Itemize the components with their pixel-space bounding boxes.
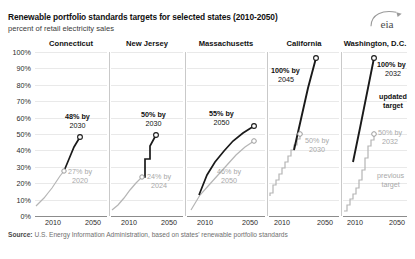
x-tick-nj-2050: 2050 — [161, 218, 177, 227]
panel-massachusetts: Massachusetts — [187, 52, 265, 216]
annotation-ct-previous-line2: 2020 — [72, 176, 88, 185]
chart-title: Renewable portfolio standards targets fo… — [8, 12, 278, 22]
annotation-dc-previous-line2: 2032 — [382, 137, 398, 146]
y-tick-90: 90% — [17, 64, 31, 73]
y-tick-0: 0% — [21, 212, 31, 221]
endpoint-updated-california — [314, 56, 319, 61]
x-tick-ca-2010: 2010 — [274, 218, 290, 227]
source-label: Source: — [8, 231, 33, 238]
y-tick-50: 50% — [17, 130, 31, 139]
annotation-ct-previous-line1: 27% by — [68, 167, 92, 176]
annotation-dc-previous: 50% by 2032 — [378, 128, 402, 147]
x-axis-connecticut: 2010 2050 — [35, 218, 107, 232]
panel-washington-dc: Washington, D.C. — [343, 52, 407, 216]
chart-subtitle: percent of retail electricity sales — [8, 24, 114, 33]
panel-series-new-jersey — [111, 52, 183, 216]
annotation-nj-updated: 50% by 2030 — [141, 110, 166, 129]
eia-logo: eia — [367, 8, 407, 34]
svg-text:eia: eia — [380, 18, 393, 30]
annotation-ma-updated-line2: 2050 — [213, 118, 229, 127]
source-text: U.S. Energy Information Administration, … — [33, 231, 288, 238]
endpoint-previous-washington-dc — [372, 132, 377, 137]
annotation-ca-updated-line2: 2045 — [278, 75, 294, 84]
endpoint-updated-washington-dc — [372, 56, 377, 61]
endpoint-previous-connecticut — [62, 169, 66, 173]
panels-container: Connecticut — [35, 52, 407, 216]
y-tick-70: 70% — [17, 97, 31, 106]
y-axis: 100% 90% 80% 70% 60% 50% 40% 30% 20% 10%… — [0, 52, 34, 216]
series-updated-new-jersey — [142, 135, 156, 177]
panel-series-massachusetts — [187, 52, 265, 216]
y-tick-20: 20% — [17, 179, 31, 188]
x-tick-dc-2050: 2050 — [389, 218, 405, 227]
y-tick-40: 40% — [17, 146, 31, 155]
y-tick-100: 100% — [13, 48, 31, 57]
panel-title-connecticut: Connecticut — [35, 39, 107, 48]
series-previous-new-jersey — [112, 177, 142, 210]
series-previous-washington-dc — [344, 134, 374, 211]
x-tick-ca-2050: 2050 — [317, 218, 333, 227]
series-updated-connecticut — [64, 137, 80, 171]
y-tick-10: 10% — [17, 195, 31, 204]
annotation-ct-previous: 27% by 2020 — [68, 167, 92, 186]
annotation-dc-previous-line1: 50% by — [378, 128, 402, 137]
annotation-nj-updated-line2: 2030 — [145, 119, 161, 128]
annotation-dc-updated-label-line1: updated — [379, 92, 407, 101]
x-tick-nj-2010: 2010 — [121, 218, 137, 227]
source-note: Source: U.S. Energy Information Administ… — [8, 231, 288, 238]
endpoint-previous-new-jersey — [140, 175, 144, 179]
x-axis-california: 2010 2050 — [269, 218, 339, 232]
panel-new-jersey: New Jersey — [111, 52, 183, 216]
series-previous-connecticut — [36, 171, 64, 206]
annotation-ma-updated: 55% by 2050 — [209, 109, 234, 128]
chart-figure: Renewable portfolio standards targets fo… — [0, 0, 415, 259]
x-axis-washington-dc: 2010 2050 — [343, 218, 407, 232]
annotation-ca-updated-line1: 100% by — [271, 66, 300, 75]
panel-california: California — [269, 52, 339, 216]
annotation-dc-updated-label-line2: target — [383, 101, 403, 110]
annotation-ma-previous-line2: 2050 — [221, 176, 237, 185]
endpoint-updated-new-jersey — [154, 133, 159, 138]
annotation-ct-updated: 48% by 2030 — [65, 112, 90, 131]
x-tick-ma-2010: 2010 — [197, 218, 213, 227]
panel-title-massachusetts: Massachusetts — [187, 39, 265, 48]
annotation-nj-previous: 24% by 2024 — [147, 172, 171, 191]
annotation-dc-previous-label-line1: previous — [377, 171, 404, 180]
y-tick-80: 80% — [17, 80, 31, 89]
annotation-nj-previous-line1: 24% by — [147, 172, 171, 181]
x-tick-ct-2010: 2010 — [45, 218, 61, 227]
endpoint-updated-massachusetts — [252, 124, 257, 129]
x-axis-massachusetts: 2010 2050 — [187, 218, 265, 232]
panel-title-washington-dc: Washington, D.C. — [343, 39, 407, 48]
annotation-dc-updated-line1: 100% by — [377, 60, 406, 69]
annotation-nj-updated-line1: 50% by — [141, 110, 166, 119]
y-tick-30: 30% — [17, 162, 31, 171]
annotation-nj-previous-line2: 2024 — [151, 181, 167, 190]
panel-series-connecticut — [35, 52, 107, 216]
endpoint-previous-massachusetts — [252, 139, 257, 144]
panel-title-new-jersey: New Jersey — [111, 39, 183, 48]
x-tick-ma-2050: 2050 — [242, 218, 258, 227]
annotation-dc-updated: 100% by 2032 — [377, 60, 406, 79]
panel-title-california: California — [269, 39, 339, 48]
annotation-dc-previous-label: previous target — [377, 171, 404, 190]
annotation-dc-updated-line2: 2032 — [385, 69, 401, 78]
annotation-ca-previous-line2: 2030 — [309, 145, 325, 154]
x-axis-new-jersey: 2010 2050 — [111, 218, 183, 232]
annotation-ct-updated-line2: 2030 — [69, 121, 85, 130]
panel-connecticut: Connecticut — [35, 52, 107, 216]
annotation-dc-previous-label-line2: target — [381, 180, 399, 189]
y-tick-60: 60% — [17, 113, 31, 122]
annotation-ca-updated: 100% by 2045 — [271, 66, 300, 85]
x-tick-dc-2010: 2010 — [347, 218, 363, 227]
annotation-dc-updated-label: updated target — [379, 92, 407, 111]
endpoint-updated-connecticut — [78, 135, 83, 140]
x-tick-ct-2050: 2050 — [85, 218, 101, 227]
annotation-ca-previous-line1: 50% by — [305, 136, 329, 145]
annotation-ca-previous: 50% by 2030 — [305, 136, 329, 155]
annotation-ma-previous: 46% by 2050 — [217, 167, 241, 186]
annotation-ma-updated-line1: 55% by — [209, 109, 234, 118]
annotation-ct-updated-line1: 48% by — [65, 112, 90, 121]
annotation-ma-previous-line1: 46% by — [217, 167, 241, 176]
endpoint-previous-california — [298, 132, 303, 137]
